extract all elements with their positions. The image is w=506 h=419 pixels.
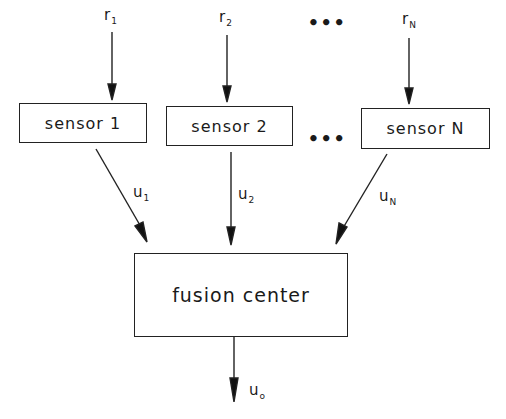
input-label-rN: rN: [402, 10, 416, 30]
arrow-head-u1: [135, 222, 147, 242]
fusion-center-label: fusion center: [172, 284, 310, 306]
fusion-center-box: fusion center: [134, 253, 348, 337]
sensor-1-label: sensor 1: [45, 114, 121, 133]
output-label-u2: u2: [238, 185, 254, 205]
sensor-n-label: sensor N: [386, 119, 464, 138]
sensor-n-box: sensor N: [361, 108, 490, 149]
input-label-r2: r2: [219, 8, 232, 28]
output-label-u1: u1: [133, 183, 149, 203]
arrows-layer: [0, 0, 506, 419]
input-label-r1: r1: [104, 6, 117, 26]
arrow-head-r1: [108, 84, 116, 100]
sensor-2-box: sensor 2: [166, 106, 293, 146]
arrow-head-u2: [227, 227, 235, 245]
sensor-2-label: sensor 2: [191, 117, 267, 136]
final-output-label-u0: uo: [249, 381, 265, 401]
arrow-head-r2: [223, 86, 231, 102]
sensor-1-box: sensor 1: [19, 103, 147, 143]
arrow-head-u0: [230, 378, 238, 402]
arrow-head-rN: [405, 88, 413, 104]
ellipsis-middle: •••: [308, 128, 347, 149]
ellipsis-top: •••: [308, 12, 347, 33]
output-label-uN: uN: [379, 187, 396, 207]
arrow-head-uN: [336, 223, 347, 244]
